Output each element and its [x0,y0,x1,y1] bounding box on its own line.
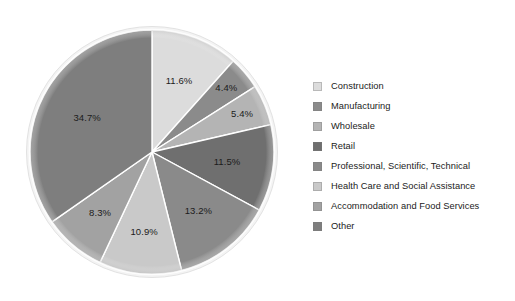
legend-color-swatch [313,102,322,111]
legend-item[interactable]: Other [313,216,513,236]
legend-color-swatch [313,222,322,231]
legend-item[interactable]: Retail [313,136,513,156]
legend-item-label: Construction [331,81,384,91]
legend-item-label: Accommodation and Food Services [331,201,479,211]
legend-item[interactable]: Accommodation and Food Services [313,196,513,216]
legend-item-label: Wholesale [331,121,375,131]
legend-color-swatch [313,122,322,131]
legend-color-swatch [313,142,322,151]
legend-item-label: Professional, Scientific, Technical [331,161,470,171]
legend-item[interactable]: Professional, Scientific, Technical [313,156,513,176]
legend-color-swatch [313,82,322,91]
pie-slice-value-label: 8.3% [89,207,112,218]
legend-item-label: Health Care and Social Assistance [331,181,475,191]
legend-item-label: Other [331,221,355,231]
pie-slice-value-label: 11.6% [166,75,193,86]
pie-chart-figure: 11.6%4.4%5.4%11.5%13.2%10.9%8.3%34.7% Co… [0,0,515,301]
pie-rim-shading [30,30,275,275]
pie-slice-value-label: 10.9% [130,226,158,237]
legend-item[interactable]: Construction [313,76,513,96]
pie-slice-value-label: 4.4% [215,82,238,93]
pie-plot-area: 11.6%4.4%5.4%11.5%13.2%10.9%8.3%34.7% [0,0,305,301]
legend-color-swatch [313,162,322,171]
pie-svg: 11.6%4.4%5.4%11.5%13.2%10.9%8.3%34.7% [0,0,305,301]
pie-slice-value-label: 5.4% [231,108,254,119]
legend-item[interactable]: Wholesale [313,116,513,136]
pie-slice-value-label: 34.7% [73,112,101,123]
legend-item[interactable]: Manufacturing [313,96,513,116]
pie-slice-value-label: 11.5% [214,156,241,167]
legend-item-label: Manufacturing [331,101,391,111]
legend-item[interactable]: Health Care and Social Assistance [313,176,513,196]
pie-slice-value-label: 13.2% [185,205,213,216]
legend-item-label: Retail [331,141,355,151]
chart-legend: ConstructionManufacturingWholesaleRetail… [313,76,513,236]
legend-color-swatch [313,202,322,211]
legend-color-swatch [313,182,322,191]
